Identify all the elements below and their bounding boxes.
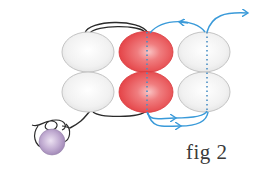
- bead-bottom-right: [178, 72, 230, 112]
- bead-top-left: [62, 32, 114, 72]
- figure-caption: fig 2: [186, 140, 228, 165]
- stop-bead-purple: [39, 129, 65, 155]
- bead-bottom-left: [62, 72, 114, 112]
- bead-bottom-middle-highlighted: [119, 72, 173, 113]
- bead-top-right: [178, 32, 230, 72]
- bead-top-middle-highlighted: [119, 32, 173, 73]
